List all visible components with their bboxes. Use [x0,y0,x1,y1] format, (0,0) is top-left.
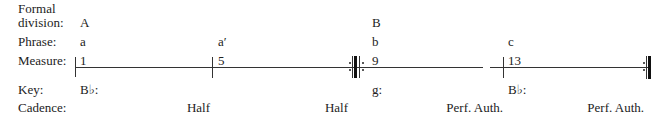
key-b-flat-2: B♭: [508,83,526,96]
phrase-a: a [80,35,86,48]
tick-m1 [75,57,76,77]
measure-5: 5 [218,54,225,67]
label-phrase: Phrase: [18,35,56,48]
tick-m13 [503,57,504,78]
phrase-b: b [372,35,379,48]
formal-division-a: A [80,16,89,29]
label-measure: Measure: [18,54,66,67]
formal-division-b: B [372,16,381,29]
label-cadence: Cadence: [18,101,66,114]
tick-m5 [212,57,213,78]
cadence-perf-auth-2: Perf. Auth. [544,101,644,114]
label-key: Key: [18,83,43,96]
cadence-perf-auth-1: Perf. Auth. [403,101,503,114]
cadence-half-2: Half [268,101,348,114]
key-b-flat-1: B♭: [80,83,98,96]
phrase-a-prime: a′ [218,35,227,48]
cadence-half-1: Half [130,101,210,114]
label-division: division: [18,16,64,29]
phrase-c: c [508,35,514,48]
label-formal: Formal [18,2,56,15]
measure-9: 9 [372,54,379,67]
measure-1: 1 [80,54,87,67]
timeline-line-1 [75,67,483,68]
measure-13: 13 [508,54,521,67]
key-g: g: [372,83,382,96]
timeline-line-2 [490,67,648,68]
